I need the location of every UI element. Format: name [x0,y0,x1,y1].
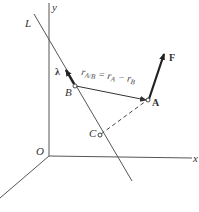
eq-sub-B: B [130,78,136,87]
svg-text:rA/B = rA − rB: rA/B = rA − rB [80,66,136,87]
point-B [73,84,77,88]
unit-vector-lambda-arrow [66,70,74,84]
eq-equals-r: = r [95,68,112,81]
force-F-label: F [169,52,175,63]
position-vector-r-AB [76,86,146,100]
z-axis [0,156,49,198]
point-C-label: C [89,127,97,139]
lambda-label: λ [55,66,60,77]
x-axis-label: x [192,152,198,164]
line-L-label: L [24,17,31,29]
point-C [98,133,102,137]
moment-about-line-diagram: y x O L B A C λ F rA/B = rA − rB [0,0,199,212]
force-F-arrow [149,54,164,99]
relative-position-equation: rA/B = rA − rB [80,66,136,87]
point-A-label: A [152,97,160,108]
origin-label: O [36,145,44,157]
point-A [146,98,150,102]
y-axis-label: y [51,1,57,13]
eq-minus-r: − r [115,71,132,84]
perpendicular-dashed-line [101,101,146,134]
x-axis [49,156,192,158]
point-B-label: B [65,86,72,98]
